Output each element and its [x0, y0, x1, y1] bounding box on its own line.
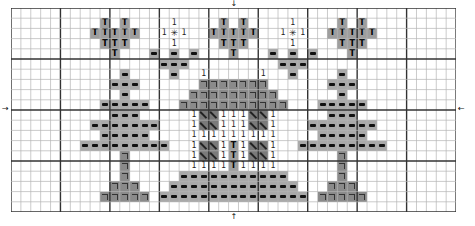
center-arrow-right-icon: ← — [458, 105, 465, 113]
center-arrow-left-icon: → — [2, 105, 9, 113]
center-arrow-top-icon: ↓ — [231, 0, 238, 8]
center-arrow-bottom-icon: ↑ — [231, 213, 238, 221]
grid-lines — [11, 8, 456, 212]
cross-stitch-chart[interactable]: TTTTTTTTTTTTTTTTTTTTTTTTTTTTTTTTT111111✳… — [11, 8, 456, 212]
